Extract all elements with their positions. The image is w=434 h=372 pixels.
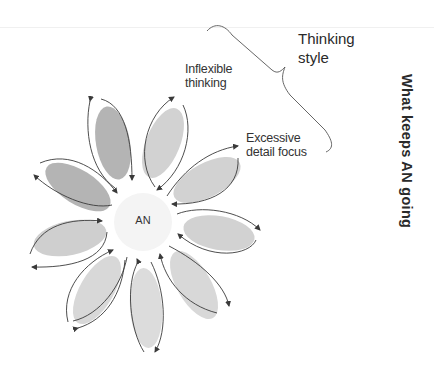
thinking-style-line-2: style (298, 49, 355, 68)
petal-right (177, 210, 260, 256)
petal-upper-left-vertical (88, 99, 136, 188)
excessive-detail-focus-label: Excessive detail focus (246, 131, 307, 159)
inflexible-thinking-line-1: Inflexible (185, 62, 232, 76)
petal-excessive-detail-focus (166, 146, 247, 212)
excessive-detail-focus-line-2: detail focus (246, 145, 307, 159)
flower-diagram (0, 0, 434, 372)
inflexible-thinking-line-2: thinking (185, 76, 232, 90)
thinking-style-line-1: Thinking (298, 30, 355, 49)
diagram-title: What keeps AN going (395, 74, 415, 264)
petal-lower-left (63, 249, 130, 332)
petal-bottom (127, 259, 165, 352)
petal-left (30, 214, 110, 267)
thinking-style-label: Thinking style (298, 30, 355, 68)
diagram-canvas: Thinking style Inflexible thinking Exces… (0, 0, 434, 372)
center-label-an: AN (123, 214, 163, 226)
inflexible-thinking-label: Inflexible thinking (185, 62, 232, 90)
petal-lower-right (160, 244, 229, 327)
excessive-detail-focus-line-1: Excessive (246, 131, 307, 145)
